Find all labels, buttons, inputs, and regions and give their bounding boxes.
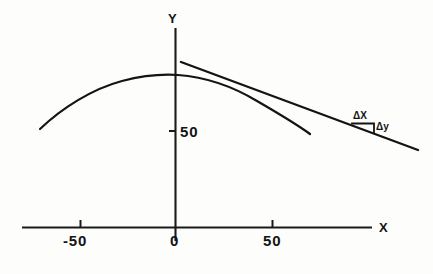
y-axis-label: Y (168, 11, 177, 26)
y-tick-label-50: 50 (180, 123, 198, 140)
x-tick-label-neg50: -50 (63, 232, 87, 249)
x-tick-label-0: 0 (170, 232, 179, 249)
x-axis-label: X (379, 220, 388, 235)
tangent-line (181, 62, 418, 150)
delta-x-label: ΔX (353, 110, 367, 121)
graph-figure: Y X -50 0 50 50 ΔX Δy (0, 0, 433, 274)
x-tick-label-50: 50 (263, 232, 281, 249)
delta-y-label: Δy (376, 121, 389, 132)
